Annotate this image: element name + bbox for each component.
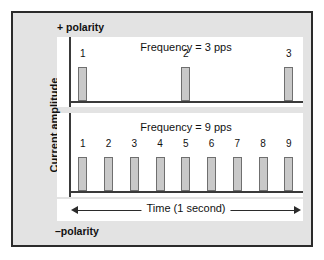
pulse-number-label: 1 (73, 138, 93, 149)
pulse-bar (181, 157, 190, 191)
pulse-bar (233, 157, 242, 191)
pulse-number-label: 1 (73, 48, 93, 59)
pulse-bar (181, 67, 190, 101)
pulse-number-label: 2 (176, 48, 196, 59)
pulse-bar (104, 157, 113, 191)
pulse-bar (156, 157, 165, 191)
figure-page: Current amplitude + polarity –polarity F… (0, 0, 324, 260)
pulse-bar (259, 157, 268, 191)
pulse-bar (284, 67, 293, 101)
pulse-number-label: 3 (279, 48, 299, 59)
figure-frame: Current amplitude + polarity –polarity F… (11, 11, 313, 247)
pulse-number-label: 9 (279, 138, 299, 149)
pulse-number-label: 6 (202, 138, 222, 149)
pulse-bar (78, 67, 87, 101)
arrow-right-icon (294, 206, 301, 214)
negative-polarity-label: –polarity (55, 225, 99, 237)
time-axis-strip: Time (1 second) (57, 199, 303, 221)
pulse-bar (284, 157, 293, 191)
baseline-top (69, 101, 303, 103)
positive-polarity-label: + polarity (57, 21, 104, 33)
pulse-number-label: 5 (176, 138, 196, 149)
time-axis-label: Time (1 second) (141, 202, 230, 214)
pulse-number-label: 4 (150, 138, 170, 149)
pulse-number-label: 3 (124, 138, 144, 149)
time-arrow: Time (1 second) (71, 205, 301, 217)
pulse-bar (207, 157, 216, 191)
pulse-number-label: 8 (253, 138, 273, 149)
plot-panel-bottom: Frequency = 9 pps 123456789 (57, 113, 303, 197)
pulse-bar (78, 157, 87, 191)
pulse-number-label: 7 (227, 138, 247, 149)
plot-panel-top: Frequency = 3 pps 123 (57, 37, 303, 107)
frequency-caption-bottom: Frequency = 9 pps (69, 121, 303, 133)
pulse-number-label: 2 (99, 138, 119, 149)
pulse-bar (130, 157, 139, 191)
baseline-bottom (69, 191, 303, 193)
